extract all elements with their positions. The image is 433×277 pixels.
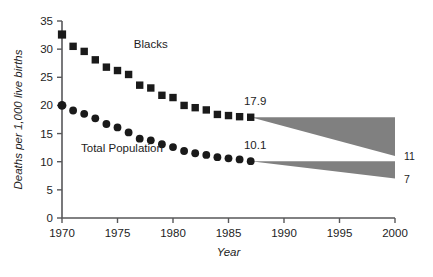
projection-endpoint-blacks: 11 [404,150,415,162]
data-point-total-population [225,154,233,162]
data-point-total-population [69,107,77,115]
y-tick-label: 0 [47,212,53,224]
data-point-blacks [180,102,187,109]
data-point-total-population [191,149,199,157]
infant-mortality-chart: 0510152025303519701975198019851990199520… [0,0,433,277]
y-tick-label: 20 [40,99,53,111]
data-point-blacks [81,48,88,55]
data-point-blacks [236,113,243,120]
annotation-total-population: Total Population [81,142,163,154]
data-point-blacks [103,63,110,70]
data-point-blacks [69,43,76,50]
data-point-total-population [169,143,177,151]
y-tick-label: 15 [40,128,53,140]
data-point-blacks [203,106,210,113]
chart-canvas: 0510152025303519701975198019851990199520… [0,0,433,277]
x-tick-label: 2000 [382,227,408,239]
data-point-blacks [158,92,165,99]
x-tick-label: 1985 [216,227,242,239]
projection-cones [251,117,395,178]
data-point-total-population [103,120,111,128]
projection-endpoint-total-population: 7 [404,173,410,185]
data-point-total-population [247,157,255,165]
data-point-blacks [58,30,66,38]
annotation-10.1: 10.1 [244,139,266,151]
y-tick-label: 5 [47,184,53,196]
projection-cone-blacks [251,117,395,156]
data-point-blacks [214,111,221,118]
x-tick-label: 1990 [271,227,297,239]
projection-cone-total-population [251,161,395,178]
x-tick-label: 1980 [160,227,186,239]
data-point-blacks [136,81,143,88]
x-axis-title: Year [217,246,242,258]
x-tick-label: 1975 [105,227,131,239]
data-point-total-population [236,156,244,164]
data-point-total-population [125,129,133,137]
data-point-blacks [114,67,121,74]
data-point-blacks [169,94,176,101]
data-point-total-population [80,110,88,118]
annotation-17.9: 17.9 [244,95,266,107]
data-point-total-population [214,153,222,161]
data-point-total-population [180,147,188,155]
x-tick-label: 1970 [49,227,75,239]
data-point-total-population [91,114,99,122]
data-point-blacks [92,56,99,63]
x-tick-label: 1995 [327,227,353,239]
annotation-blacks: Blacks [134,38,168,50]
y-axis-title: Deaths per 1,000 live births [12,49,24,189]
data-point-blacks [225,112,232,119]
y-tick-label: 10 [40,156,53,168]
data-point-total-population [58,101,67,110]
data-point-blacks [247,114,254,121]
y-tick-label: 30 [40,43,53,55]
y-tick-label: 35 [40,15,53,27]
data-point-total-population [114,123,122,131]
y-tick-label: 25 [40,71,53,83]
data-point-total-population [202,151,210,159]
data-point-blacks [125,71,132,78]
data-point-blacks [147,84,154,91]
data-point-blacks [192,104,199,111]
